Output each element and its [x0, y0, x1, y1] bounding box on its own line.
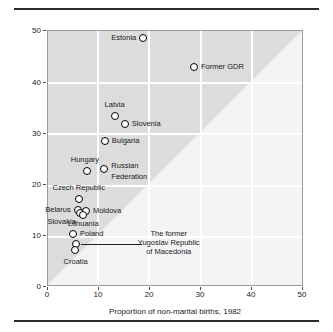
point-label: Belarus: [45, 206, 70, 215]
gridline-y-40: [48, 82, 302, 84]
ytick-label-30: 30: [17, 129, 41, 138]
point-label: Slovenia: [132, 120, 161, 129]
point-label: Croatia: [64, 258, 88, 267]
xtick-label-50: 50: [298, 290, 307, 299]
point-label: Latvia: [105, 101, 125, 110]
gridline-y-30: [48, 133, 302, 135]
macedonia-leader-line: [81, 244, 142, 245]
data-point-marker[interactable]: [83, 167, 91, 175]
data-point-marker[interactable]: [101, 137, 109, 145]
point-label: Federation: [111, 172, 147, 181]
point-label: Russian: [111, 161, 138, 170]
ytick-50: [43, 30, 46, 31]
data-point-marker[interactable]: [75, 195, 83, 203]
ytick-label-10: 10: [17, 231, 41, 240]
xtick-label-10: 10: [94, 290, 103, 299]
point-label: Bulgaria: [112, 136, 140, 145]
top-rule: [14, 8, 319, 10]
xtick-label-30: 30: [196, 290, 205, 299]
xtick-label-0: 0: [45, 290, 49, 299]
point-label: Former GDR: [201, 63, 244, 72]
point-label: Czech Republic: [52, 184, 105, 193]
ytick-30: [43, 133, 46, 134]
data-point-marker[interactable]: [190, 63, 198, 71]
bottom-rule: [14, 320, 319, 322]
data-point-marker[interactable]: [121, 120, 129, 128]
ytick-label-40: 40: [17, 78, 41, 87]
ytick-40: [43, 82, 46, 83]
ytick-0: [43, 286, 46, 287]
data-point-marker[interactable]: [71, 246, 79, 254]
point-label: Poland: [80, 229, 103, 238]
scatter-plot-figure: 0 10 20 30 40 50 0 10 20 30 40 50 Propor…: [0, 0, 333, 332]
gridline-x-40: [251, 31, 253, 285]
data-point-marker[interactable]: [100, 165, 108, 173]
point-label: Hungary: [71, 156, 99, 165]
data-point-marker[interactable]: [79, 211, 87, 219]
ytick-20: [43, 184, 46, 185]
ytick-label-0: 0: [17, 282, 41, 291]
x-axis-title: Proportion of non-marital births, 1982: [109, 307, 241, 316]
data-point-marker[interactable]: [69, 230, 77, 238]
data-point-marker[interactable]: [111, 112, 119, 120]
point-label: Estonia: [111, 34, 136, 43]
point-label: Lithuania: [68, 220, 98, 229]
ytick-10: [43, 235, 46, 236]
xtick-label-20: 20: [145, 290, 154, 299]
point-label: of Macedonia: [146, 247, 191, 256]
xtick-label-40: 40: [247, 290, 256, 299]
point-label: Moldova: [93, 206, 121, 215]
data-point-marker[interactable]: [139, 34, 147, 42]
ytick-label-20: 20: [17, 180, 41, 189]
ytick-label-50: 50: [17, 26, 41, 35]
